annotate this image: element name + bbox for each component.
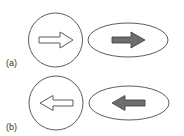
panel-label-b: (b) — [6, 122, 17, 132]
diagram-canvas: (a) (b) — [0, 0, 184, 136]
arrow-right-outline-icon — [39, 32, 73, 48]
panel-label-a: (a) — [6, 58, 17, 68]
arrow-left-outline-icon — [40, 96, 73, 111]
panel-a: (a) — [6, 13, 168, 68]
panel-b: (b) — [6, 76, 169, 132]
arrow-right-filled-icon — [112, 32, 145, 48]
arrow-left-filled-icon — [112, 96, 145, 111]
